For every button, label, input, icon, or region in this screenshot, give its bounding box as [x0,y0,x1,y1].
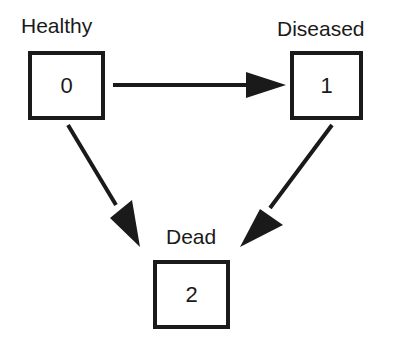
node-healthy: 0 [28,51,105,120]
node-diseased: 1 [290,51,363,120]
node-dead: 2 [153,260,230,329]
node-value-healthy: 0 [60,73,72,99]
node-label-healthy: Healthy [21,14,92,38]
edge-0-to-2 [68,125,140,247]
node-value-diseased: 1 [320,73,332,99]
node-value-dead: 2 [185,282,197,308]
node-label-dead: Dead [166,225,216,249]
edge-0-to-1 [113,72,286,98]
edge-1-to-2 [240,125,332,247]
node-label-diseased: Diseased [277,17,365,41]
